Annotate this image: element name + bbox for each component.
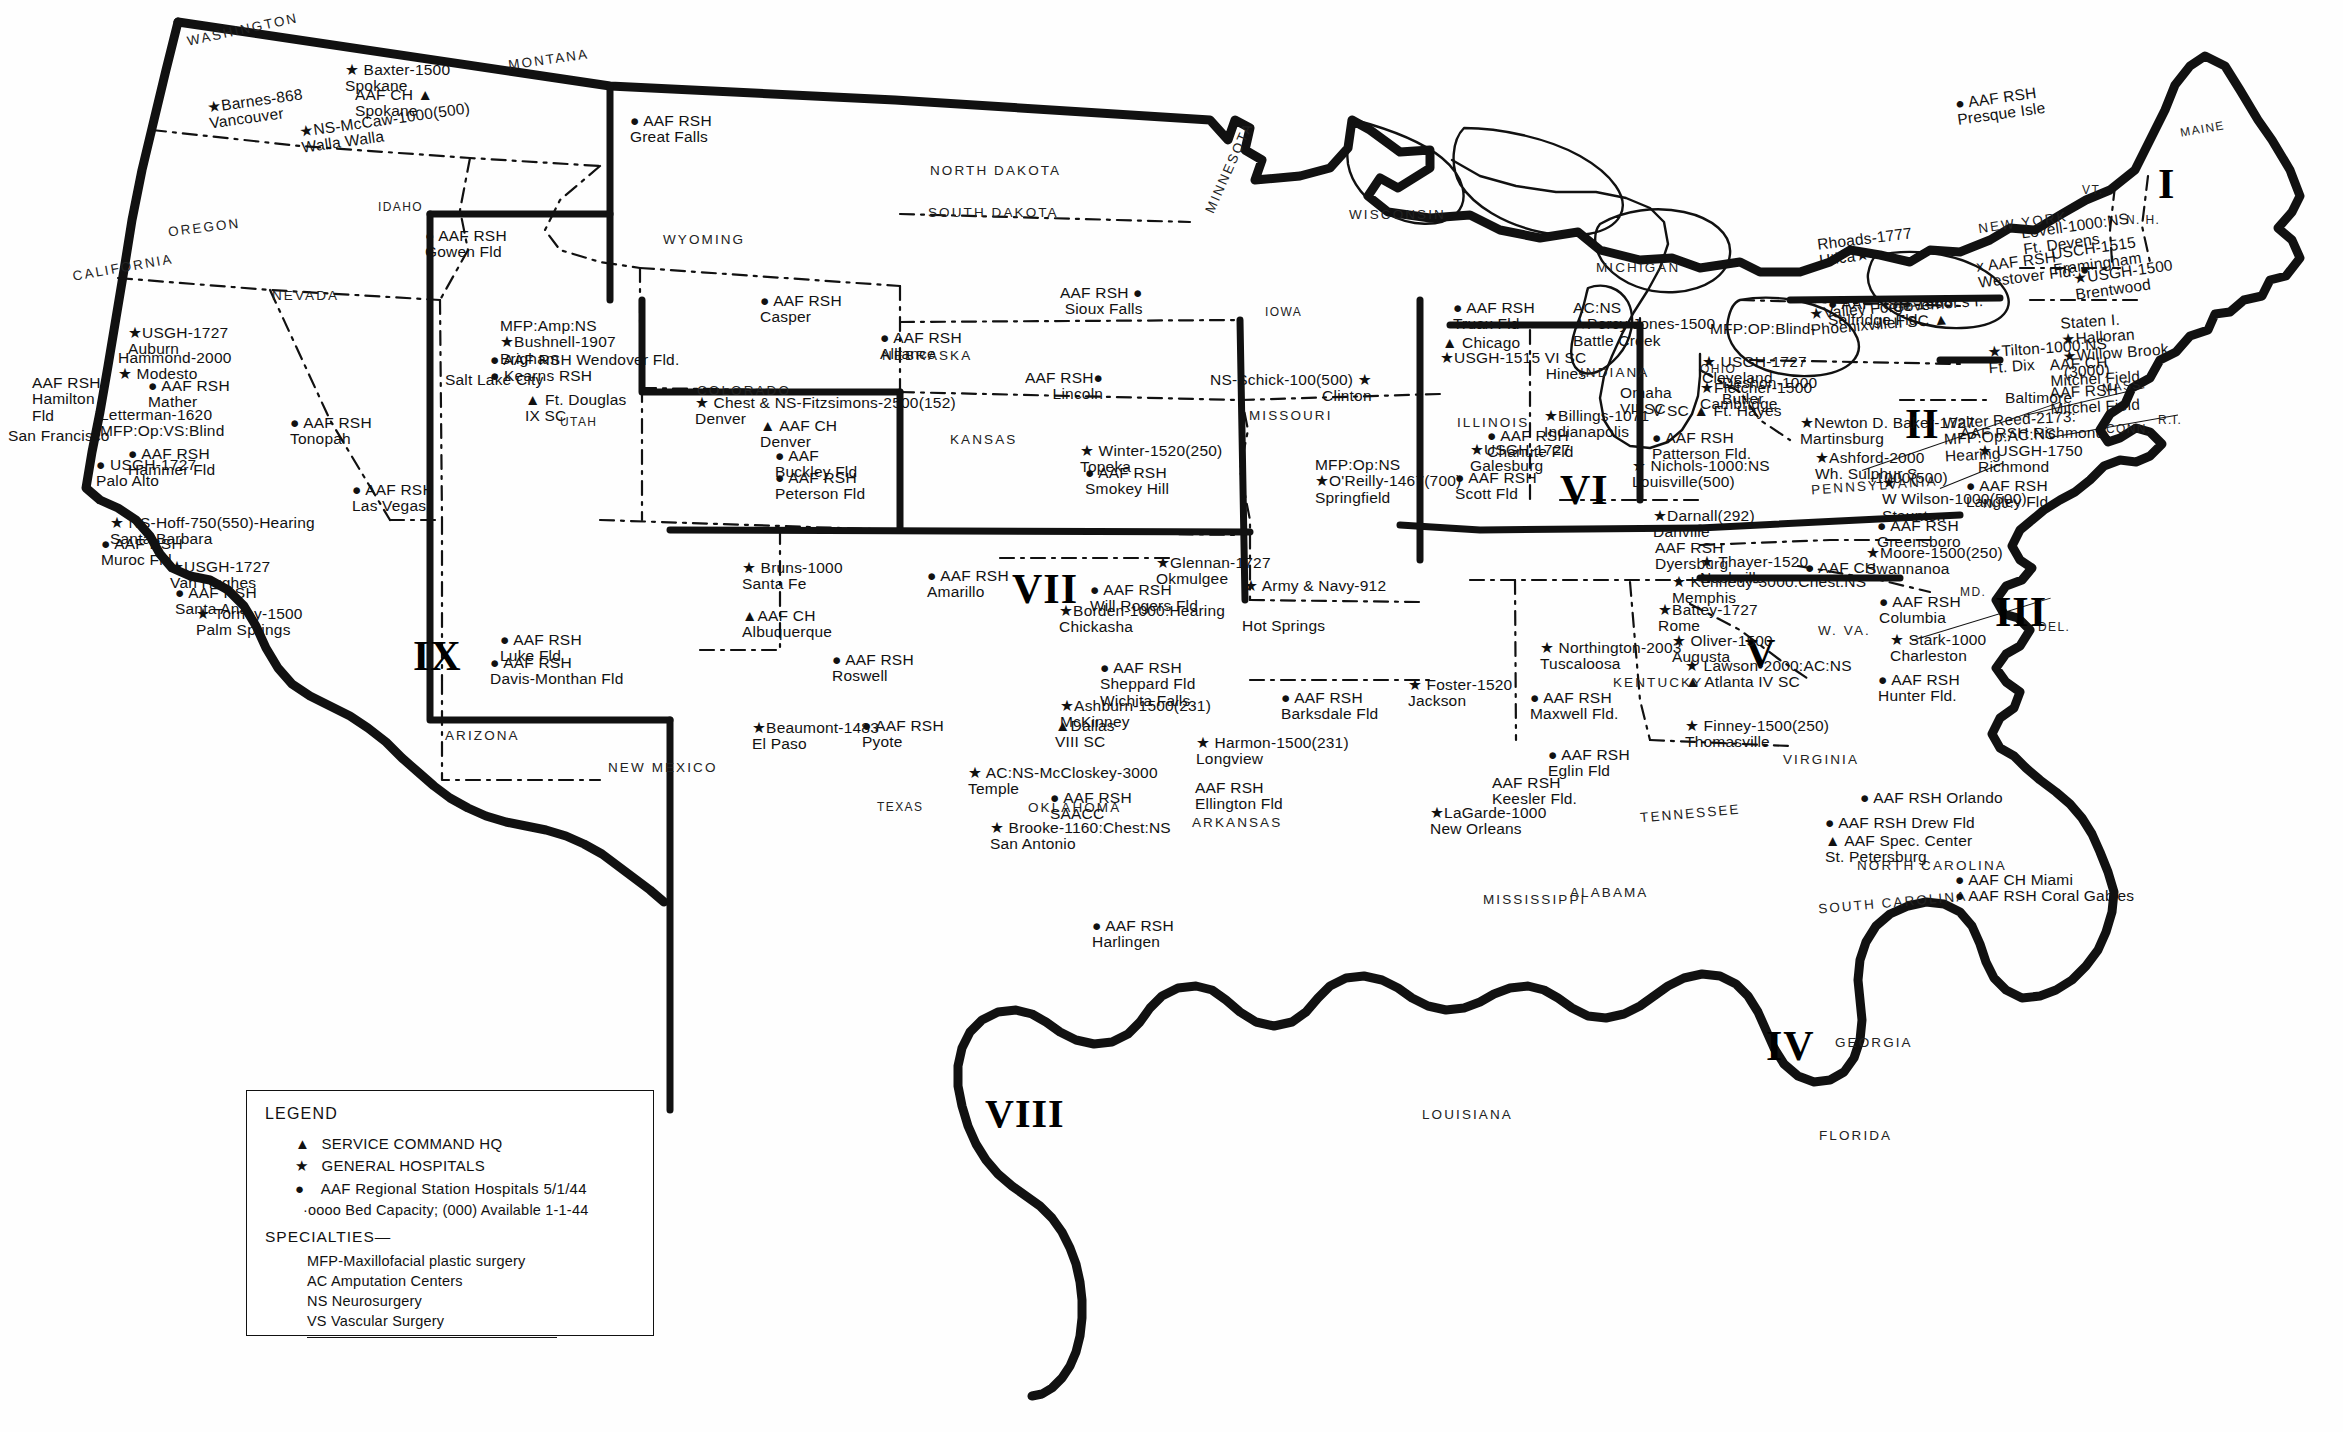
state-label: GEORGIA bbox=[1835, 1035, 1913, 1050]
hospital-site-label: ▲ Ft. DouglasIX SC bbox=[525, 392, 627, 425]
legend-specialty-ns: NS Neurosurgery bbox=[307, 1293, 637, 1309]
site-primary-line: ● AAF RSH bbox=[1548, 747, 1630, 763]
hospital-site-label: ● AAF RSHSmokey Hill bbox=[1085, 465, 1169, 498]
hospital-site-label: ● AAF RSHHarlingen bbox=[1092, 918, 1174, 951]
hospital-site-label: AAF RSHEllington Fld bbox=[1195, 780, 1283, 813]
site-primary-line: ● AAF RSH bbox=[1455, 470, 1537, 486]
site-primary-line: ▲ Ft. Douglas bbox=[525, 392, 627, 408]
service-command-numeral: VIII bbox=[985, 1090, 1065, 1137]
state-label: SOUTH DAKOTA bbox=[928, 205, 1059, 220]
hospital-site-label: ● AAF RSHRoswell bbox=[832, 652, 914, 685]
site-primary-line: ● AAF RSH bbox=[760, 293, 842, 309]
site-secondary-line: Swannanoa bbox=[1866, 561, 2003, 577]
site-primary-line: AAF CH ▲ bbox=[355, 87, 433, 103]
legend-specialty-vs: VS Vascular Surgery bbox=[307, 1313, 637, 1329]
hospital-site-label: ★USGH-1515 VI SCHines bbox=[1440, 350, 1586, 383]
legend-specialties-title: SPECIALTIES— bbox=[265, 1228, 637, 1246]
hospital-site-label: ★Moore-1500(250)Swannanoa bbox=[1866, 545, 2003, 578]
site-primary-line: ★ Kennedy-3000:Chest:NS bbox=[1672, 574, 1866, 590]
service-command-numeral: III bbox=[1995, 588, 2047, 636]
site-secondary-line: Amarillo bbox=[927, 584, 1009, 600]
hospital-site-label: Deshon-1000Butler bbox=[1722, 375, 1817, 408]
site-secondary-line: El Paso bbox=[752, 736, 879, 752]
state-label: MISSOURI bbox=[1249, 408, 1333, 423]
legend-entry-general-hospitals: ★ GENERAL HOSPITALS bbox=[295, 1157, 637, 1175]
site-primary-line: AAF RSH bbox=[32, 375, 101, 391]
hospital-site-label: ● AAF RSHChanute Fld bbox=[1487, 428, 1574, 461]
hospital-site-label: MFP:OP:Blind- bbox=[1710, 321, 1816, 337]
legend-entry-service-command: ▲ SERVICE COMMAND HQ bbox=[295, 1135, 637, 1152]
site-primary-line: Hammond-2000 bbox=[118, 350, 232, 366]
site-secondary-line: Lincoln bbox=[1025, 386, 1103, 402]
site-primary-line: ● AAF RSH bbox=[490, 655, 623, 671]
star-icon: ★ bbox=[295, 1157, 317, 1175]
hospital-map: WASHINGTONMONTANANORTH DAKOTAMINNESOTAOR… bbox=[0, 0, 2343, 1432]
site-primary-line: Letterman-1620 bbox=[100, 407, 224, 423]
site-secondary-line: Columbia bbox=[1879, 610, 1961, 626]
site-primary-line: AAF RSH Richmond bbox=[1960, 425, 2104, 441]
site-primary-line: ● AAF RSH Wendover Fld. bbox=[490, 352, 679, 368]
site-secondary-line: San Antonio bbox=[990, 836, 1171, 852]
hospital-site-label: ● AAF RSHPeterson Fld bbox=[775, 470, 865, 503]
site-primary-line: MFP:Op:NS bbox=[1315, 457, 1461, 473]
site-primary-line: ● AAF RSH bbox=[1530, 690, 1619, 706]
site-secondary-line: Davis-Monthan Fld bbox=[490, 671, 623, 687]
hospital-site-label: Hot Springs bbox=[1242, 618, 1325, 634]
site-secondary-line: IX SC bbox=[525, 408, 627, 424]
hospital-site-label: Salt Lake City bbox=[445, 372, 543, 388]
site-secondary-line: VIII SC bbox=[1055, 734, 1115, 750]
site-secondary-line: Great Falls bbox=[630, 129, 712, 145]
site-secondary-line: Ellington Fld bbox=[1195, 796, 1283, 812]
site-primary-line: ● AAF RSH bbox=[1966, 478, 2053, 494]
hospital-site-label: ● AAF RSHGowen Fld bbox=[425, 228, 507, 261]
site-secondary-line: Springfield bbox=[1315, 490, 1461, 506]
state-label: IDAHO bbox=[378, 200, 423, 214]
hospital-site-label: ● AAF RSHBarksdale Fld bbox=[1281, 690, 1378, 723]
hospital-site-label: ● AAF RSHMaxwell Fld. bbox=[1530, 690, 1619, 723]
site-primary-line: ★ NS-Hoff-750(550)-Hearing bbox=[110, 515, 315, 531]
site-primary-line: ▲ AAF Spec. Center bbox=[1825, 833, 1972, 849]
hospital-site-label: ● AAF RSHHunter Fld. bbox=[1878, 672, 1960, 705]
site-primary-line: ● AAF RSH bbox=[425, 228, 507, 244]
hospital-site-label: ● AAF CH Miami● AAF RSH Coral Gables bbox=[1955, 872, 2134, 905]
hospital-site-label: ▲ AAF CHDenver bbox=[760, 418, 837, 451]
hospital-site-label: ▲DallasVIII SC bbox=[1055, 718, 1115, 751]
hospital-site-label: ● AAF RSHAmarillo bbox=[927, 568, 1009, 601]
site-primary-line: ● AAF RSH bbox=[1085, 465, 1169, 481]
site-primary-line: ★USGH-1727 bbox=[170, 559, 270, 575]
site-primary-line: -1000(500) bbox=[1870, 470, 1948, 486]
site-primary-line: Deshon-1000 bbox=[1722, 375, 1817, 391]
site-secondary-line: Richmond bbox=[1978, 459, 2083, 475]
site-primary-line: ● AAF RSH bbox=[775, 470, 865, 486]
site-secondary-line: Hines bbox=[1440, 366, 1586, 382]
site-secondary-line: Casper bbox=[760, 309, 842, 325]
site-primary-line: ● AAF RSH bbox=[927, 568, 1009, 584]
site-primary-line: ★ Bruns-1000 bbox=[742, 560, 843, 576]
hospital-site-label: AAF RSH Richmond bbox=[1960, 425, 2104, 441]
hospital-site-label: ● AAF RSHCasper bbox=[760, 293, 842, 326]
site-secondary-line: Smokey Hill bbox=[1085, 481, 1169, 497]
site-primary-line: ● AAF RSH bbox=[175, 585, 257, 601]
site-primary-line: ★Ashburn-1500(231) bbox=[1060, 698, 1211, 714]
site-primary-line: ★ Oliver-1500 bbox=[1672, 633, 1773, 649]
site-secondary-line: New Orleans bbox=[1430, 821, 1546, 837]
hospital-site-label: MFP:Op:NS★O'Reilly-1467(700)Springfield bbox=[1315, 457, 1461, 506]
site-primary-line: ★Battey-1727 bbox=[1658, 602, 1758, 618]
site-primary-line: ★ Lawson-2000:AC:NS bbox=[1685, 658, 1852, 674]
hospital-site-label: San Francisco bbox=[8, 428, 110, 444]
legend-title: LEGEND bbox=[265, 1105, 637, 1123]
hospital-site-label: ● AAF RSHTruax Fld bbox=[1453, 300, 1535, 333]
state-label: VT. bbox=[2082, 183, 2104, 197]
state-label: W. VA. bbox=[1818, 623, 1871, 638]
legend-specialty-ac: AC Amputation Centers bbox=[307, 1273, 637, 1289]
site-primary-line: ● AAF RSH bbox=[862, 718, 944, 734]
hospital-site-label: NS-Schick-100(500) ★Clinton bbox=[1210, 372, 1372, 405]
hospital-site-label: ★ Torney-1500Palm Springs bbox=[196, 606, 303, 639]
state-label: TEXAS bbox=[877, 800, 923, 814]
site-primary-line: ● AAF RSH Drew Fld bbox=[1825, 815, 1975, 831]
site-secondary-line: Peterson Fld bbox=[775, 486, 865, 502]
hospital-site-label: ★ Finney-1500(250)Thomasville bbox=[1685, 718, 1829, 751]
hospital-site-label: ★Darnall(292)Danville bbox=[1653, 508, 1755, 541]
site-secondary-line: Chickasha bbox=[1059, 619, 1225, 635]
hospital-site-label: ★ Army & Navy-912 bbox=[1244, 578, 1386, 594]
